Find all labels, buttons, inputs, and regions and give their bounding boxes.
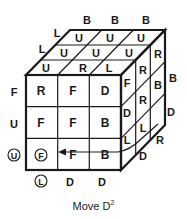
sticker-top-r0c0: U xyxy=(75,32,83,44)
label-front-bottom-2: D xyxy=(98,176,106,188)
sticker-top-r0c1: U xyxy=(106,32,114,44)
sticker-top-r2c1: R xyxy=(79,62,87,74)
label-top-back-1: B xyxy=(111,14,119,26)
sticker-right-r1c1: R xyxy=(139,94,147,106)
label-top-back-2: B xyxy=(142,14,150,26)
label-top-left-1: L xyxy=(39,43,46,55)
label-front-bottom-0: L xyxy=(38,177,44,187)
sticker-right-r2c0: L xyxy=(124,134,131,146)
label-front-left-0: F xyxy=(11,86,18,98)
sticker-front-r0c0: R xyxy=(37,84,46,98)
sticker-right-r1c0: D xyxy=(123,107,131,119)
sticker-top-r2c0: U xyxy=(42,62,50,74)
label-top-back-0: B xyxy=(83,14,91,26)
figure-caption: Move D2 xyxy=(0,199,187,212)
label-right-bottom-0: D xyxy=(139,150,147,162)
label-right-back-0: B xyxy=(169,72,177,84)
label-right-back-2: R xyxy=(156,134,164,146)
sticker-top-r0c2: U xyxy=(137,32,145,44)
sticker-front-r1c2: B xyxy=(101,116,110,130)
front-face-stickers: R F D F F B F F B xyxy=(35,84,110,162)
label-front-bottom-1: D xyxy=(66,176,74,188)
label-front-left-1: U xyxy=(10,118,18,130)
sticker-front-r2c0: F xyxy=(38,151,44,161)
cube-diagram: U U U U U U U R L R F D F F B F F B F R … xyxy=(0,0,187,219)
right-face-stickers: F R R D R B L L xyxy=(123,48,162,146)
sticker-right-r0c1: R xyxy=(139,64,147,76)
sticker-top-r1c1: U xyxy=(92,47,100,59)
sticker-top-r2c2: L xyxy=(106,62,113,74)
caption-text: Move D xyxy=(73,200,111,212)
sticker-front-r0c1: F xyxy=(69,84,76,98)
label-top-left-0: L xyxy=(54,27,61,39)
label-front-left-2: U xyxy=(11,151,18,161)
caption-superscript: 2 xyxy=(111,199,115,206)
sticker-right-r0c2: R xyxy=(154,48,162,60)
sticker-front-r2c1: F xyxy=(69,148,76,162)
sticker-front-r1c1: F xyxy=(69,116,76,130)
sticker-front-r1c0: F xyxy=(37,116,44,130)
label-right-back-1: D xyxy=(167,106,175,118)
sticker-right-r2c1: L xyxy=(140,122,147,134)
sticker-top-r1c2: U xyxy=(125,47,133,59)
sticker-right-r0c0: F xyxy=(124,77,131,89)
sticker-top-r1c0: U xyxy=(60,47,68,59)
sticker-right-r1c2: B xyxy=(154,79,162,91)
sticker-front-r0c2: D xyxy=(101,84,110,98)
sticker-front-r2c2: B xyxy=(101,148,110,162)
